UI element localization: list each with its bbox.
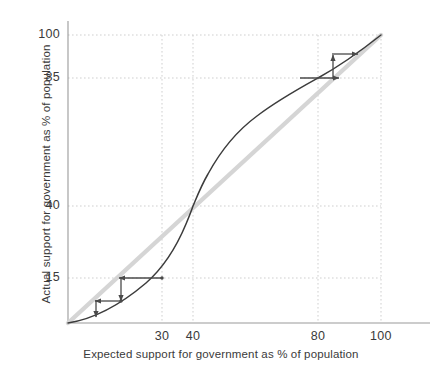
y-tick-label-85: 85 [16, 71, 60, 84]
x-tick-label-40: 40 [173, 330, 213, 343]
y-axis-title: Actual support for government as % of po… [40, 24, 52, 324]
cobweb-point-lower [119, 299, 122, 302]
chart-container: 100 85 40 15 30 40 80 100 Expected suppo… [0, 0, 442, 371]
cobweb-point-upper [160, 276, 163, 279]
x-tick-label-80: 80 [298, 330, 338, 343]
chart-plot-area [0, 0, 442, 371]
x-axis-title: Expected support for government as % of … [0, 348, 442, 360]
x-tick-label-100: 100 [361, 330, 401, 343]
y-tick-label-15: 15 [16, 271, 60, 284]
y-tick-label-40: 40 [16, 199, 60, 212]
y-tick-label-100: 100 [16, 28, 60, 41]
